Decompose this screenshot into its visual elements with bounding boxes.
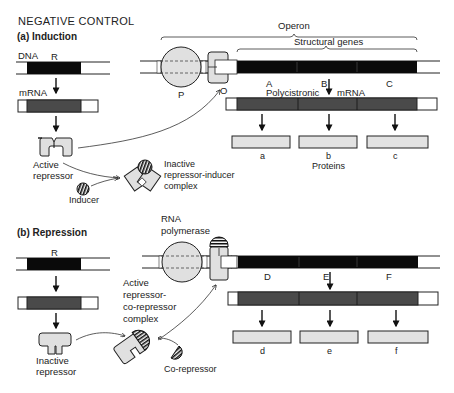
- protein-a-label: a: [260, 151, 265, 161]
- mrna-label: mRNA: [19, 87, 48, 98]
- repressor-corepressor-complex-icon: [112, 326, 154, 365]
- bound-repressor-icon: [210, 237, 237, 280]
- corepressor-to-complex-arrow: [158, 338, 178, 345]
- operator-label: O: [220, 85, 227, 96]
- rna-polymerase-icon: [161, 47, 201, 87]
- operon-brace: [161, 34, 417, 40]
- repressor-inducer-complex-icon: [124, 160, 160, 191]
- gene-d-label: D: [264, 271, 271, 282]
- polycistronic-label: Polycistronic: [266, 87, 320, 98]
- regulator-mrna: [18, 100, 98, 112]
- regulator-gene-label: R: [51, 51, 58, 62]
- protein-c: [367, 136, 428, 148]
- repression-panel: (b) Repression R Inactive repressor Acti…: [16, 213, 440, 377]
- rna-polymerase-label-1: RNA: [161, 213, 182, 224]
- protein-e-label: e: [327, 346, 332, 356]
- active-repressor-label-1: Active: [33, 159, 59, 170]
- protein-c-label: c: [393, 151, 398, 161]
- polycistronic-mrna: [226, 98, 437, 110]
- protein-b-label: b: [326, 151, 331, 161]
- corep-complex-label-3: co-repressor: [123, 301, 176, 312]
- regulator-dna: [16, 62, 110, 74]
- proteins-label: Proteins: [312, 161, 346, 171]
- inducer-to-complex-arrow: [91, 178, 118, 186]
- protein-e: [300, 331, 358, 343]
- promoter-label: P: [178, 89, 184, 100]
- corep-complex-label-1: Active: [123, 277, 149, 288]
- gene-f-label: F: [386, 271, 392, 282]
- corepressor-icon: [171, 346, 182, 359]
- complex-label-1: Inactive: [164, 159, 195, 169]
- induction-panel: (a) Induction DNA R mRNA Active represso…: [16, 20, 440, 205]
- gene-b-label: B: [321, 78, 327, 89]
- protein-f: [368, 331, 428, 343]
- repression-regulator-mrna: [18, 297, 98, 309]
- inducer-label: Inducer: [69, 195, 99, 205]
- repression-regulator-label: R: [51, 247, 58, 258]
- corep-complex-label-4: complex: [123, 313, 159, 324]
- repressor-to-corepressor-complex-arrow: [76, 333, 125, 340]
- complex-label-2: repressor-inducer: [164, 170, 235, 180]
- diagram-title: NEGATIVE CONTROL: [18, 15, 134, 27]
- rna-polymerase-label-2: polymerase: [161, 225, 210, 236]
- induction-heading: (a) Induction: [17, 31, 77, 42]
- protein-d-label: d: [260, 346, 265, 356]
- repression-heading: (b) Repression: [17, 227, 87, 238]
- polycistronic-mrna-label: mRNA: [337, 87, 366, 98]
- operon-label: Operon: [278, 20, 310, 31]
- protein-d: [233, 331, 291, 343]
- protein-f-label: f: [395, 346, 398, 356]
- inactive-repressor-label-1: Inactive: [36, 355, 69, 366]
- repression-polycistronic-mrna: [228, 292, 438, 305]
- corep-complex-label-2: repressor-: [123, 289, 166, 300]
- repressor-binds-operator-arrow: [78, 90, 220, 148]
- protein-a: [232, 136, 290, 148]
- gene-e-label: E: [323, 271, 329, 282]
- complex-label-3: complex: [164, 181, 198, 191]
- structural-genes-label: Structural genes: [294, 36, 363, 47]
- complex-binds-operator-arrow: [158, 285, 216, 340]
- repression-rna-polymerase-icon: [162, 242, 202, 282]
- inducer-icon: [77, 183, 89, 195]
- dna-label: DNA: [18, 50, 39, 61]
- repression-regulator-dna: [16, 258, 110, 270]
- gene-c-label: C: [386, 78, 393, 89]
- corepressor-label: Co-repressor: [164, 364, 217, 374]
- protein-b: [299, 136, 357, 148]
- inactive-repressor-icon: [39, 333, 71, 354]
- inactive-repressor-label-2: repressor: [36, 366, 76, 377]
- active-repressor-label-2: repressor: [33, 170, 73, 181]
- negative-control-diagram: NEGATIVE CONTROL (a) Induction DNA R mRN…: [0, 0, 454, 393]
- active-repressor-icon: [38, 138, 72, 156]
